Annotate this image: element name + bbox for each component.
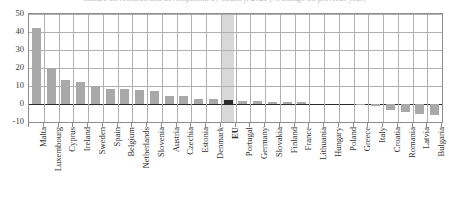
bar [194, 99, 203, 104]
vertical-gridline [427, 14, 428, 122]
y-axis-tick-label: 10 [16, 81, 25, 90]
bar [120, 89, 129, 104]
vertical-gridline [295, 14, 296, 122]
vertical-gridline [280, 14, 281, 122]
bar [47, 68, 56, 104]
bar [238, 101, 247, 104]
y-axis-tick-label: -10 [13, 117, 24, 126]
vertical-gridline [88, 14, 89, 122]
x-axis-label-hungary: Hungary [334, 127, 343, 157]
bar [32, 28, 41, 104]
vertical-gridline [309, 14, 310, 122]
bar [297, 102, 306, 104]
x-axis-label-slovakia: Slovakia [275, 127, 284, 157]
x-axis-label-sweden: Sweden [98, 127, 107, 154]
x-axis-label-eu: EU [231, 127, 240, 139]
vertical-gridline [324, 14, 325, 122]
x-axis-label-bulgaria: Bulgaria [437, 127, 446, 157]
y-axis-tick-label: 40 [16, 27, 25, 36]
vertical-gridline [147, 14, 148, 122]
vertical-gridline [132, 14, 133, 122]
vertical-gridline [339, 14, 340, 122]
vertical-gridline [236, 14, 237, 122]
x-axis-label-luxembourg: Luxembourg [54, 127, 63, 171]
x-axis-label-finland: Finland [290, 127, 299, 153]
x-axis-label-denmark: Denmark [216, 127, 225, 159]
y-axis-tick-label: 50 [16, 9, 25, 18]
vertical-gridline [250, 14, 251, 122]
bar [283, 102, 292, 104]
vertical-gridline [103, 14, 104, 122]
x-axis-label-italy: Italy [378, 127, 387, 143]
bar [61, 80, 70, 104]
bar [356, 104, 365, 105]
vertical-gridline [162, 14, 163, 122]
x-axis-label-slovenia: Slovenia [157, 127, 166, 157]
bar [386, 104, 395, 110]
x-axis-label-estonia: Estonia [201, 127, 210, 153]
bar-eu [224, 100, 233, 104]
bar [165, 96, 174, 104]
x-axis-label-austria: Austria [172, 127, 181, 152]
bar [150, 91, 159, 104]
bar [179, 96, 188, 104]
x-axis-label-netherlands: Netherlands [142, 127, 151, 169]
x-axis-label-belgium: Belgium [127, 127, 136, 157]
x-axis-label-romania: Romania [408, 127, 417, 158]
x-axis-label-spain: Spain [113, 127, 122, 147]
vertical-gridline [118, 14, 119, 122]
bar [253, 101, 262, 104]
vertical-gridline [398, 14, 399, 122]
bar [415, 104, 424, 114]
x-axis-label-croatia: Croatia [393, 127, 402, 152]
bar [76, 82, 85, 104]
y-axis-tick-labels: 50403020100-10 [0, 7, 27, 129]
vertical-gridline [383, 14, 384, 122]
bar [430, 104, 439, 115]
bar-chart: 50403020100-10 MaltaLuxembourgCyprusIrel… [0, 7, 449, 199]
y-axis-tick-label: 0 [20, 99, 24, 108]
x-axis-label-ireland: Ireland [83, 127, 92, 151]
x-axis-label-portugal: Portugal [245, 127, 254, 156]
x-axis-label-france: France [304, 127, 313, 150]
vertical-gridline [354, 14, 355, 122]
vertical-gridline [221, 14, 222, 122]
y-axis-tick-label: 20 [16, 63, 25, 72]
plot-area [28, 13, 443, 123]
x-axis-label-latvia: Latvia [422, 127, 431, 149]
bar [135, 90, 144, 104]
bar [268, 102, 277, 104]
vertical-gridline [413, 14, 414, 122]
x-axis-label-malta: Malta [39, 127, 48, 147]
x-axis-category-labels: MaltaLuxembourgCyprusIrelandSwedenSpainB… [28, 127, 443, 199]
vertical-gridline [368, 14, 369, 122]
vertical-gridline [73, 14, 74, 122]
bar [91, 86, 100, 104]
vertical-gridline [59, 14, 60, 122]
vertical-gridline [177, 14, 178, 122]
x-axis-label-greece: Greece [363, 127, 372, 151]
bar [401, 104, 410, 112]
bar [371, 104, 380, 106]
bar [106, 89, 115, 104]
vertical-gridline [44, 14, 45, 122]
y-axis-tick-label: 30 [16, 45, 25, 54]
vertical-gridline [191, 14, 192, 122]
x-axis-label-cyprus: Cyprus [68, 127, 77, 152]
cut-off-chart-title: nditure on research and development, by … [0, 0, 449, 7]
x-axis-label-czechia: Czechia [186, 127, 195, 155]
vertical-gridline [265, 14, 266, 122]
x-axis-label-poland: Poland [349, 127, 358, 151]
x-axis-label-lithuania: Lithuania [319, 127, 328, 160]
vertical-gridline [206, 14, 207, 122]
bar [209, 99, 218, 104]
x-axis-label-germany: Germany [260, 127, 269, 159]
cut-off-chart-title-text: nditure on research and development, by … [0, 0, 449, 3]
